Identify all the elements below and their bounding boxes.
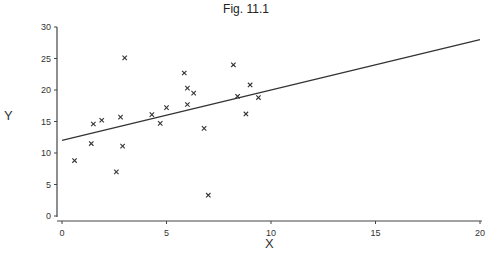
fit-line <box>62 40 480 141</box>
x-tick-label: 10 <box>266 228 276 238</box>
x-marker-icon <box>244 112 248 116</box>
x-marker-icon <box>72 158 76 162</box>
x-marker-icon <box>123 56 127 60</box>
x-marker-icon <box>158 121 162 125</box>
y-tick-label: 20 <box>41 85 51 95</box>
x-marker-icon <box>231 63 235 67</box>
y-tick-label: 30 <box>41 22 51 32</box>
x-marker-icon <box>89 141 93 145</box>
data-points <box>72 56 260 198</box>
x-marker-icon <box>164 105 168 109</box>
x-marker-icon <box>118 115 122 119</box>
x-marker-icon <box>202 126 206 130</box>
x-marker-icon <box>100 118 104 122</box>
x-marker-icon <box>114 170 118 174</box>
x-tick-label: 5 <box>164 228 169 238</box>
x-marker-icon <box>182 71 186 75</box>
x-marker-icon <box>256 95 260 99</box>
y-tick-label: 5 <box>46 180 51 190</box>
y-tick-label: 10 <box>41 148 51 158</box>
regression-line <box>62 40 480 141</box>
x-marker-icon <box>120 144 124 148</box>
x-marker-icon <box>185 86 189 90</box>
x-tick-label: 20 <box>475 228 485 238</box>
x-marker-icon <box>185 102 189 106</box>
scatter-plot: 05101520253005101520 <box>0 0 492 254</box>
x-marker-icon <box>91 122 95 126</box>
x-marker-icon <box>248 83 252 87</box>
x-tick-label: 0 <box>59 228 64 238</box>
y-tick-label: 15 <box>41 117 51 127</box>
y-tick-label: 25 <box>41 54 51 64</box>
x-tick-label: 15 <box>370 228 380 238</box>
x-marker-icon <box>191 91 195 95</box>
y-tick-label: 0 <box>46 211 51 221</box>
x-marker-icon <box>150 112 154 116</box>
x-marker-icon <box>206 193 210 197</box>
